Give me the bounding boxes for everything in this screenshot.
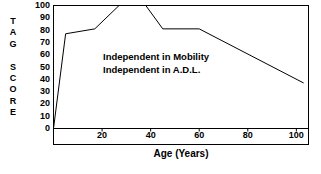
x-axis-band [54,129,309,145]
chart-figure: TAG SCORE 1009080706050403020100 2040608… [0,0,321,174]
plot-annotation: Independent in MobilityIndependent in A.… [103,50,209,76]
plot-area [0,0,321,174]
annotation-line: Independent in A.D.L. [103,63,209,76]
annotation-line: Independent in Mobility [103,50,209,63]
